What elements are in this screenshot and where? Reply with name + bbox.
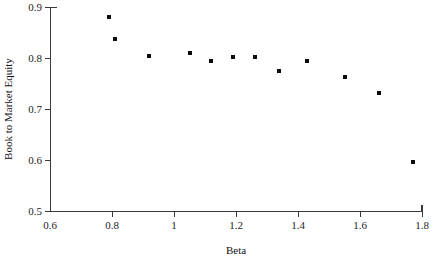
data-point [147, 54, 151, 58]
x-tick-label: 1.8 [415, 219, 429, 231]
y-tick-label: 0.6 [28, 154, 42, 166]
x-tick-label: 0.6 [43, 219, 57, 231]
data-point [113, 37, 117, 41]
scatter-chart-figure: 0.50.60.70.80.9 0.60.811.21.41.61.8 Beta… [0, 0, 443, 259]
data-point [107, 15, 111, 19]
data-point [277, 69, 281, 73]
y-tick-label: 0.5 [28, 205, 42, 217]
x-axis-ticks: 0.60.811.21.41.61.8 [43, 212, 429, 232]
data-point [411, 160, 415, 164]
x-tick-label: 1 [171, 219, 177, 231]
data-point [253, 55, 257, 59]
data-point [188, 51, 192, 55]
y-tick-label: 0.7 [28, 103, 42, 115]
x-tick-label: 1.4 [291, 219, 305, 231]
y-axis-title: Book to Market Equity [2, 58, 14, 160]
y-axis-ticks: 0.50.60.70.80.9 [28, 1, 50, 217]
x-tick-label: 0.8 [105, 219, 119, 231]
data-point [231, 55, 235, 59]
x-axis-title: Beta [226, 244, 246, 256]
data-point [343, 75, 347, 79]
data-point [209, 59, 213, 63]
data-point [377, 91, 381, 95]
axes [50, 7, 423, 212]
y-tick-label: 0.8 [28, 52, 42, 64]
data-point [305, 59, 309, 63]
x-tick-label: 1.2 [229, 219, 243, 231]
y-tick-label: 0.9 [28, 1, 42, 13]
data-point-series [107, 15, 415, 164]
x-tick-label: 1.6 [353, 219, 367, 231]
plot-area: 0.50.60.70.80.9 0.60.811.21.41.61.8 Beta… [0, 0, 443, 259]
